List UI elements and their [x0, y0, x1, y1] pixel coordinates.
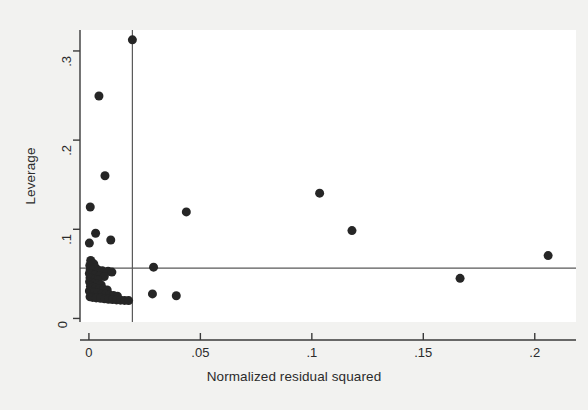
y-tick-label: 0	[55, 322, 70, 329]
data-point	[124, 296, 133, 305]
data-point	[347, 226, 356, 235]
x-tick-label: .1	[306, 345, 317, 360]
data-point	[128, 35, 137, 44]
x-tick-label: 0	[85, 345, 92, 360]
scatter-plot-figure: Normalized residual squared Leverage 0.0…	[0, 0, 588, 410]
data-point	[106, 235, 115, 244]
data-point	[149, 263, 158, 272]
data-point	[100, 171, 109, 180]
x-tick-label: .2	[529, 345, 540, 360]
plot-area-background	[80, 30, 576, 322]
data-point	[91, 229, 100, 238]
y-axis-title: Leverage	[23, 147, 38, 204]
data-point	[172, 291, 181, 300]
x-tick-label: .15	[414, 345, 432, 360]
y-tick-label: .3	[59, 56, 74, 67]
data-point	[85, 239, 94, 248]
data-point	[315, 189, 324, 198]
data-point	[456, 274, 465, 283]
data-point	[107, 268, 116, 277]
data-point	[148, 289, 157, 298]
data-point	[182, 207, 191, 216]
x-axis-title: Normalized residual squared	[0, 369, 588, 384]
data-point	[94, 91, 103, 100]
y-tick-label: .2	[59, 145, 74, 156]
data-point	[86, 202, 95, 211]
y-tick-label: .1	[59, 234, 74, 245]
x-tick-label: .05	[191, 345, 209, 360]
data-point	[544, 251, 553, 260]
